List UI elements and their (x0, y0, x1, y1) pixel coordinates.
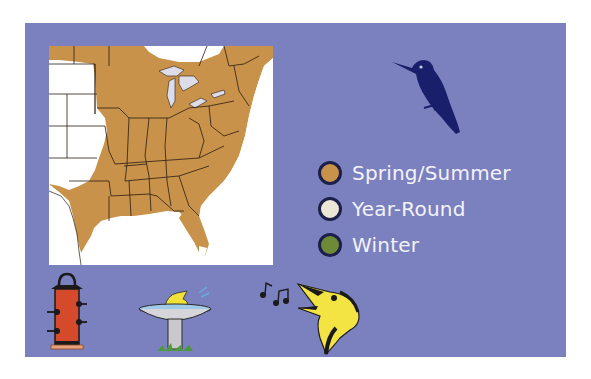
legend-label: Winter (352, 233, 419, 257)
tube-feeder-icon (45, 271, 89, 355)
year-round-swatch-icon (318, 197, 342, 221)
bird-bath-icon (137, 285, 213, 359)
legend-item-year-round: Year-Round (318, 191, 511, 227)
range-map (49, 46, 273, 265)
singing-bird-icon (258, 278, 364, 358)
range-map-graphic (49, 46, 273, 265)
range-info-panel: Spring/Summer Year-Round Winter (25, 23, 566, 357)
legend-item-spring-summer: Spring/Summer (318, 155, 511, 191)
range-legend: Spring/Summer Year-Round Winter (318, 155, 511, 263)
winter-swatch-icon (318, 233, 342, 257)
music-notes-icon (260, 283, 289, 306)
spring-summer-swatch-icon (318, 161, 342, 185)
legend-label: Year-Round (352, 197, 466, 221)
legend-label: Spring/Summer (352, 161, 511, 185)
legend-item-winter: Winter (318, 227, 511, 263)
hummingbird-silhouette-icon (388, 48, 468, 138)
